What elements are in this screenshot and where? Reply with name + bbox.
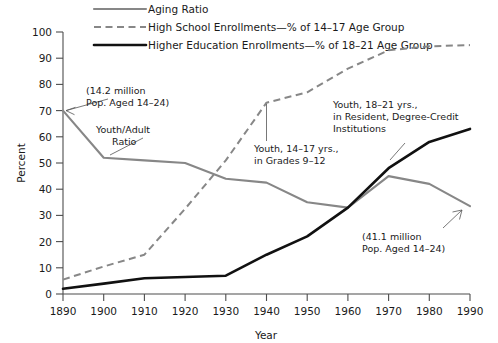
annotation-line: Pop. Aged 14–24) [362,243,445,254]
chart-figure: Aging Ratio High School Enrollments—% of… [0,0,498,343]
legend-item-aging-ratio: Aging Ratio [94,3,208,15]
y-tick-label: 40 [39,183,52,195]
y-tick-label: 100 [32,26,52,38]
y-tick-label: 0 [45,288,52,300]
legend-item-label: Aging Ratio [148,3,208,15]
x-tick-label: 1920 [172,305,199,317]
x-tick-label: 1900 [90,305,117,317]
annotation-leader-line [443,210,462,228]
annotation-line: Pop. Aged 14–24) [86,97,169,108]
y-tick-label: 90 [39,52,52,64]
y-tick-label: 10 [39,262,52,274]
y-axis-title: Percent [15,143,27,183]
chart-legend: Aging Ratio High School Enrollments—% of… [94,3,433,51]
x-tick-label: 1940 [253,305,280,317]
y-tick-label: 20 [39,236,52,248]
annotation-line: Ratio [112,136,137,147]
y-tick-label: 30 [39,209,52,221]
x-tick-label: 1990 [457,305,484,317]
legend-item-higher-education: Higher Education Enrollments—% of 18–21 … [94,39,433,51]
annotation-line: Youth/Adult [95,124,150,135]
annotation-leader-line [390,143,405,160]
y-tick-label: 60 [39,131,52,143]
x-axis-title: Year [254,329,278,341]
annotation-pop-1990: (41.1 million Pop. Aged 14–24) [362,210,462,254]
annotation-line: in Resident, Degree-Credit [333,111,459,122]
annotation-line: in Grades 9–12 [254,155,326,166]
chart-axes: 0 10 20 30 40 50 60 70 80 90 [15,26,483,341]
x-tick-label: 1950 [294,305,321,317]
annotation-hs-grades: Youth, 14–17 yrs., in Grades 9–12 [253,104,339,166]
y-tick-label: 80 [39,78,52,90]
y-tick-label: 70 [39,105,52,117]
x-tick-label: 1890 [50,305,77,317]
x-tick-label: 1910 [131,305,158,317]
annotation-line: Institutions [333,123,386,134]
y-tick-label: 50 [39,157,52,169]
annotation-line: (14.2 million [86,85,146,96]
line-chart: Aging Ratio High School Enrollments—% of… [0,0,498,343]
legend-item-high-school: High School Enrollments—% of 14–17 Age G… [94,21,405,33]
annotation-he-institutions: Youth, 18–21 yrs., in Resident, Degree-C… [332,99,459,160]
x-tick-label: 1960 [335,305,362,317]
x-tick-label: 1970 [375,305,402,317]
annotation-line: Youth, 14–17 yrs., [253,143,339,154]
annotation-line: Youth, 18–21 yrs., [332,99,418,110]
annotation-line: (41.1 million [362,231,422,242]
x-axis-ticks: 1890 1900 1910 1920 1930 1940 1950 1960 … [50,294,484,317]
annotation-youth-adult-ratio: Youth/Adult Ratio [95,124,150,155]
x-tick-label: 1930 [212,305,239,317]
chart-annotations: (14.2 million Pop. Aged 14–24) Youth/Adu… [66,85,462,254]
y-axis-ticks: 0 10 20 30 40 50 60 70 80 90 [32,26,63,300]
annotation-pop-1890: (14.2 million Pop. Aged 14–24) [66,85,169,115]
x-tick-label: 1980 [416,305,443,317]
legend-item-label: High School Enrollments—% of 14–17 Age G… [148,21,405,33]
